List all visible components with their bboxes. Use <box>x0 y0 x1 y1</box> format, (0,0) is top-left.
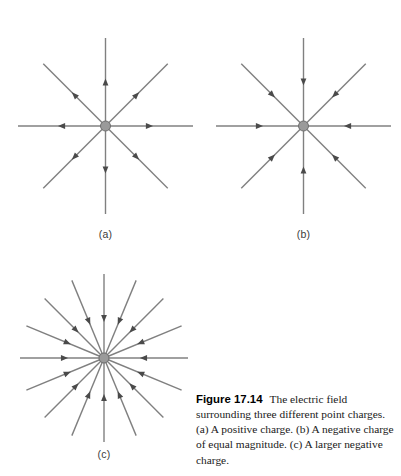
field-line-arrowhead-outward <box>58 123 65 129</box>
field-line-arrowhead-outward <box>146 123 153 129</box>
field-line-arrowhead-inward <box>118 391 123 399</box>
field-line-arrowhead-inward <box>344 123 351 129</box>
field-line-arrowhead-inward <box>137 372 145 377</box>
field-line-arrowhead-inward <box>85 391 90 399</box>
figure-container: (a) (b) (c) Figure 17.14The electric fie… <box>0 0 401 476</box>
point-charge-negative <box>99 353 109 363</box>
panel-label-c: (c) <box>14 448 194 460</box>
field-line-arrowhead-inward <box>101 315 107 322</box>
figure-caption: Figure 17.14The electric field surroundi… <box>196 392 394 468</box>
field-line-arrowhead-inward <box>101 394 107 401</box>
field-line-arrowhead-inward <box>63 339 71 344</box>
field-lines-svg-c <box>14 272 194 444</box>
field-line-arrowhead-inward <box>140 355 147 361</box>
field-line-arrowhead-inward <box>118 317 123 325</box>
panel-label-b: (b) <box>216 228 391 240</box>
field-line-arrowhead-inward <box>85 317 90 325</box>
field-line-arrowhead-inward <box>301 78 307 85</box>
figure-number: Figure 17.14 <box>196 393 262 405</box>
field-line-arrowhead-outward <box>103 166 109 173</box>
field-line-arrowhead-inward <box>63 372 71 377</box>
point-charge-positive <box>101 121 111 131</box>
field-line-arrowhead-outward <box>103 78 109 85</box>
field-lines-svg-a <box>18 26 193 226</box>
field-diagram-positive-charge <box>18 26 193 226</box>
field-lines-svg-b <box>216 26 391 226</box>
field-line-arrowhead-inward <box>256 123 263 129</box>
panel-label-a: (a) <box>18 228 193 240</box>
field-line-arrowhead-inward <box>301 166 307 173</box>
field-line-arrowhead-inward <box>61 355 68 361</box>
field-diagram-larger-negative-charge <box>14 272 194 444</box>
field-line-arrowhead-inward <box>137 339 145 344</box>
point-charge-negative <box>299 121 309 131</box>
field-diagram-negative-charge <box>216 26 391 226</box>
